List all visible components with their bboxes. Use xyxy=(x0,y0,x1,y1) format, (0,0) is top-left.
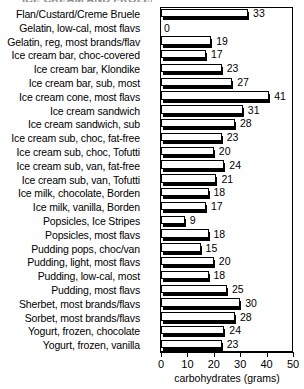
bar xyxy=(161,174,216,182)
chart-title-remnant: ICE CREAM AND FROZEN xyxy=(22,0,152,2)
bar-plot-area: 41 xyxy=(161,90,293,104)
bar-value-label: 23 xyxy=(227,131,239,145)
bar xyxy=(161,133,222,141)
bar-row: Pudding, most flavs25 xyxy=(0,283,304,297)
bar-category-label: Flan/Custard/Creme Bruele xyxy=(0,7,144,21)
bar-plot-area: 23 xyxy=(161,338,293,352)
x-tick-label: 40 xyxy=(255,357,279,371)
bar-value-label: 28 xyxy=(240,117,252,131)
bar-value-label: 19 xyxy=(216,35,228,49)
bar-value-label: 24 xyxy=(229,324,241,338)
bar-row: Ice cream sandwich31 xyxy=(0,104,304,118)
bar-category-label: Ice cream sub, choc, Tofutti xyxy=(0,145,144,159)
bar xyxy=(161,243,201,251)
bar xyxy=(161,119,235,127)
bar xyxy=(161,105,243,113)
bar-category-label: Pudding, low-cal, most xyxy=(0,269,144,283)
bar-category-label: Popsicles, most flavs xyxy=(0,228,144,242)
bar-value-label: 27 xyxy=(237,76,249,90)
bar-value-label: 41 xyxy=(274,90,286,104)
bar-row: Ice milk, chocolate, Borden18 xyxy=(0,186,304,200)
bar-row: Gelatin, low-cal, most flavs0 xyxy=(0,21,304,35)
bar xyxy=(161,326,224,334)
bar-plot-area: 27 xyxy=(161,76,293,90)
bar-plot-area: 20 xyxy=(161,145,293,159)
bar-value-label: 23 xyxy=(227,62,239,76)
bar-plot-area: 21 xyxy=(161,173,293,187)
bar-value-label: 30 xyxy=(245,297,257,311)
bar xyxy=(161,50,206,58)
bar-value-label: 17 xyxy=(211,48,223,62)
bar-value-label: 21 xyxy=(221,173,233,187)
bar-category-label: Ice cream sandwich, sub xyxy=(0,117,144,131)
bar-plot-area: 23 xyxy=(161,131,293,145)
bar xyxy=(161,91,269,99)
bar-row: Ice cream bar, choc-covered17 xyxy=(0,48,304,62)
bar-row: Ice cream sub, choc, fat-free23 xyxy=(0,131,304,145)
bar-category-label: Ice milk, chocolate, Borden xyxy=(0,186,144,200)
bar-plot-area: 18 xyxy=(161,269,293,283)
bar-category-label: Yogurt, frozen, chocolate xyxy=(0,324,144,338)
bar xyxy=(161,285,227,293)
bar-plot-area: 20 xyxy=(161,255,293,269)
bar-plot-area: 18 xyxy=(161,186,293,200)
bar-value-label: 28 xyxy=(240,311,252,325)
bar xyxy=(161,340,222,348)
x-tick-label: 10 xyxy=(175,357,199,371)
bar-row: Ice cream sub, van, fat-free24 xyxy=(0,159,304,173)
bar-plot-area: 17 xyxy=(161,48,293,62)
bar-plot-area: 19 xyxy=(161,35,293,49)
bar-plot-area: 18 xyxy=(161,228,293,242)
bar-category-label: Ice cream sandwich xyxy=(0,104,144,118)
bar xyxy=(161,64,222,72)
bar-row: Ice milk, vanilla, Borden17 xyxy=(0,200,304,214)
bar xyxy=(161,229,209,237)
bar-category-label: Pudding, most flavs xyxy=(0,283,144,297)
bar xyxy=(161,298,240,306)
bar xyxy=(161,36,211,44)
bar-category-label: Ice cream bar, Klondike xyxy=(0,62,144,76)
carbohydrates-bar-chart: ICE CREAM AND FROZEN Flan/Custard/Creme … xyxy=(0,0,304,389)
bar-category-label: Gelatin, low-cal, most flavs xyxy=(0,21,144,35)
bar-plot-area: 25 xyxy=(161,283,293,297)
bar xyxy=(161,271,209,279)
bar-value-label: 18 xyxy=(214,186,226,200)
bar-plot-area: 24 xyxy=(161,159,293,173)
bar-row: Ice cream sandwich, sub28 xyxy=(0,117,304,131)
bar-category-label: Ice cream cone, most flavs xyxy=(0,90,144,104)
bar-value-label: 25 xyxy=(232,283,244,297)
bar-row: Pudding pops, choc/van15 xyxy=(0,242,304,256)
bar-row: Yogurt, frozen, chocolate24 xyxy=(0,324,304,338)
bar-category-label: Ice cream sub, choc, fat-free xyxy=(0,131,144,145)
bar-rows: Flan/Custard/Creme Bruele33Gelatin, low-… xyxy=(0,7,304,352)
bar-plot-area: 9 xyxy=(161,214,293,228)
bar-category-label: Ice cream sub, van, fat-free xyxy=(0,159,144,173)
bar-row: Ice cream cone, most flavs41 xyxy=(0,90,304,104)
bar-value-label: 0 xyxy=(164,21,170,36)
bar-value-label: 31 xyxy=(248,104,260,118)
bar-row: Popsicles, most flavs18 xyxy=(0,228,304,242)
bar-plot-area: 0 xyxy=(161,21,293,35)
bar-row: Ice cream sub, choc, Tofutti20 xyxy=(0,145,304,159)
bar-category-label: Ice cream sub, van, Tofutti xyxy=(0,173,144,187)
bar xyxy=(161,160,224,168)
bar-value-label: 9 xyxy=(190,214,196,228)
bar-row: Popsicles, Ice Stripes9 xyxy=(0,214,304,228)
bar-category-label: Pudding pops, choc/van xyxy=(0,242,144,256)
bar-plot-area: 23 xyxy=(161,62,293,76)
bar-category-label: Pudding, light, most flavs xyxy=(0,255,144,269)
bar-category-label: Gelatin, reg, most brands/flav xyxy=(0,35,144,49)
bar-value-label: 20 xyxy=(219,255,231,269)
bar-row: Sorbet, most brands/flavs28 xyxy=(0,311,304,325)
bar-row: Pudding, low-cal, most18 xyxy=(0,269,304,283)
bar-plot-area: 24 xyxy=(161,324,293,338)
bar-category-label: Ice cream bar, choc-covered xyxy=(0,48,144,62)
bar xyxy=(161,9,248,17)
bar-category-label: Ice cream bar, sub, most xyxy=(0,76,144,90)
bar-row: Gelatin, reg, most brands/flav19 xyxy=(0,35,304,49)
bar-value-label: 17 xyxy=(211,200,223,214)
bar xyxy=(161,78,232,86)
bar-row: Yogurt, frozen, vanilla23 xyxy=(0,338,304,352)
bar-category-label: Sorbet, most brands/flavs xyxy=(0,311,144,325)
bar xyxy=(161,202,206,210)
